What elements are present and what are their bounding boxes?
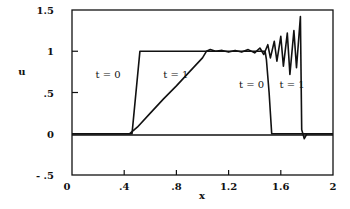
x-tick-label: 0 [64, 181, 71, 192]
x-tick-label: 2 [330, 181, 337, 192]
annotations: t = 0t = 1t = 0t = 1 [95, 69, 304, 90]
y-tick-label: 1 [47, 46, 54, 57]
y-axis-label: u [18, 66, 25, 77]
x-tick-label: .4 [119, 181, 129, 192]
series-annotation: t = 1 [279, 79, 304, 90]
series-annotation: t = 1 [163, 69, 188, 80]
series-annotation: t = 0 [239, 79, 264, 90]
x-axis-label: x [199, 190, 206, 201]
y-tick-label: 0 [47, 129, 54, 140]
chart-svg: 0.4.81.21.62- .50.511.5 t = 0t = 1t = 0t… [0, 0, 350, 209]
x-tick-label: .8 [171, 181, 181, 192]
series-line-t0 [72, 51, 333, 134]
y-tick-label: - .5 [36, 170, 54, 181]
x-tick-label: 1.2 [220, 181, 237, 192]
x-tick-label: 1.6 [272, 181, 289, 192]
y-tick-label: 1.5 [37, 5, 54, 16]
y-tick-label: .5 [44, 88, 54, 99]
series-annotation: t = 0 [95, 69, 120, 80]
tick-labels: 0.4.81.21.62- .50.511.5 [36, 5, 337, 192]
